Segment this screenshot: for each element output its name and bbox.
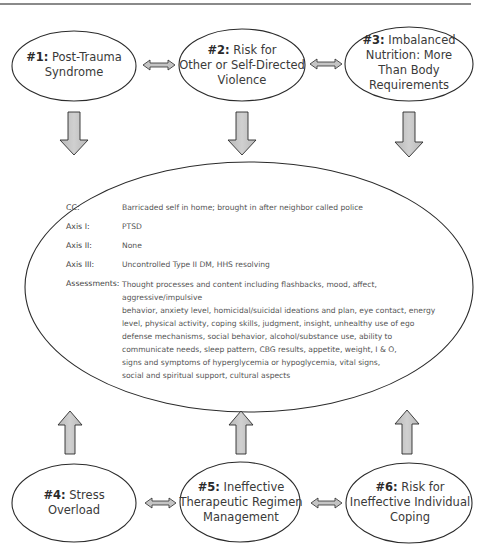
node-number: #6: bbox=[375, 480, 397, 494]
axis-2-row: Axis II: None bbox=[66, 240, 456, 252]
node-number: #3: bbox=[362, 33, 384, 47]
cc-value: Barricaded self in home; brought in afte… bbox=[122, 202, 456, 214]
cc-label: CC: bbox=[66, 202, 122, 214]
up-arrow-icon bbox=[229, 411, 253, 454]
node-6-label: #6: Risk for Ineffective Individual Copi… bbox=[344, 480, 476, 525]
node-4-label: #4: Stress Overload bbox=[14, 488, 134, 518]
assessments-row: Assessments: Thought processes and conte… bbox=[66, 278, 456, 382]
down-arrow-icon bbox=[395, 112, 423, 157]
node-5-label: #5: Ineffective Therapeutic Regimen Mana… bbox=[176, 480, 306, 525]
node-3-label: #3: Imbalanced Nutrition: More Than Body… bbox=[349, 33, 469, 93]
assessments-value: Thought processes and content including … bbox=[122, 278, 456, 382]
patient-summary: CC: Barricaded self in home; brought in … bbox=[66, 202, 456, 382]
axis-3-row: Axis III: Uncontrolled Type II DM, HHS r… bbox=[66, 259, 456, 271]
axis-2-label: Axis II: bbox=[66, 240, 122, 252]
axis-1-label: Axis I: bbox=[66, 221, 122, 233]
up-arrow-icon bbox=[395, 410, 419, 454]
down-arrow-icon bbox=[60, 112, 88, 155]
up-arrow-icon bbox=[58, 411, 82, 454]
axis-1-row: Axis I: PTSD bbox=[66, 221, 456, 233]
double-arrow-icon bbox=[145, 498, 176, 508]
axis-1-value: PTSD bbox=[122, 221, 456, 233]
cc-row: CC: Barricaded self in home; brought in … bbox=[66, 202, 456, 214]
node-number: #5: bbox=[198, 480, 220, 494]
node-number: #1: bbox=[26, 50, 48, 64]
node-number: #2: bbox=[207, 43, 229, 57]
node-2-label: #2: Risk for Other or Self-Directed Viol… bbox=[177, 43, 307, 88]
axis-2-value: None bbox=[122, 240, 456, 252]
double-arrow-icon bbox=[310, 59, 342, 69]
axis-3-label: Axis III: bbox=[66, 259, 122, 271]
down-arrow-icon bbox=[228, 112, 256, 155]
node-1-label: #1: Post-Trauma Syndrome bbox=[14, 50, 134, 80]
axis-3-value: Uncontrolled Type II DM, HHS resolving bbox=[122, 259, 456, 271]
node-number: #4: bbox=[43, 488, 65, 502]
double-arrow-icon bbox=[311, 498, 342, 508]
double-arrow-icon bbox=[143, 60, 175, 70]
assessments-label: Assessments: bbox=[66, 278, 122, 382]
